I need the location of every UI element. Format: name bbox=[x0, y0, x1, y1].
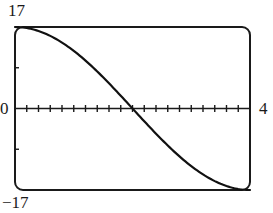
plot-area bbox=[0, 0, 273, 213]
